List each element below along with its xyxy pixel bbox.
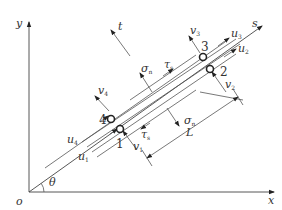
u2-arrow xyxy=(224,49,236,57)
v3-label: v3 xyxy=(190,24,200,37)
s-axis-label: s xyxy=(252,17,258,30)
sigma-bottom-arrow xyxy=(167,108,179,126)
joint-element-diagram: y x o s θ t u3 u2 u4 u1 v3 v2 v4 v1 σn τ… xyxy=(0,0,282,210)
node-2-label: 2 xyxy=(220,65,228,79)
v2-label: v2 xyxy=(225,78,235,91)
length-label: L xyxy=(185,126,193,139)
origin-label: o xyxy=(16,195,23,208)
u4-label: u4 xyxy=(67,133,78,146)
v4-label: v4 xyxy=(98,84,108,97)
node-4-label: 4 xyxy=(99,113,107,127)
u3-label: u3 xyxy=(231,27,242,40)
sigma-top-label: σn xyxy=(141,62,153,75)
v3-arrow xyxy=(189,36,200,53)
node-3-label: 3 xyxy=(201,40,209,54)
u1-label: u1 xyxy=(78,150,89,163)
tau-bottom-label: τs xyxy=(141,128,150,141)
node-3 xyxy=(200,54,207,61)
y-axis-label: y xyxy=(15,17,23,30)
angle-label: θ xyxy=(49,176,56,189)
s-axis xyxy=(29,26,262,192)
node-1-label: 1 xyxy=(116,137,124,151)
t-axis-label: t xyxy=(118,20,123,33)
tau-top-label: τs xyxy=(164,58,173,71)
node-4 xyxy=(108,116,115,123)
x-axis-label: x xyxy=(268,194,275,207)
angle-arc xyxy=(41,183,44,192)
v4-arrow xyxy=(95,96,109,111)
node-2 xyxy=(207,66,214,73)
node-1 xyxy=(117,126,124,133)
v1-label: v1 xyxy=(133,140,143,153)
t-axis xyxy=(111,30,130,56)
u2-label: u2 xyxy=(238,42,249,55)
